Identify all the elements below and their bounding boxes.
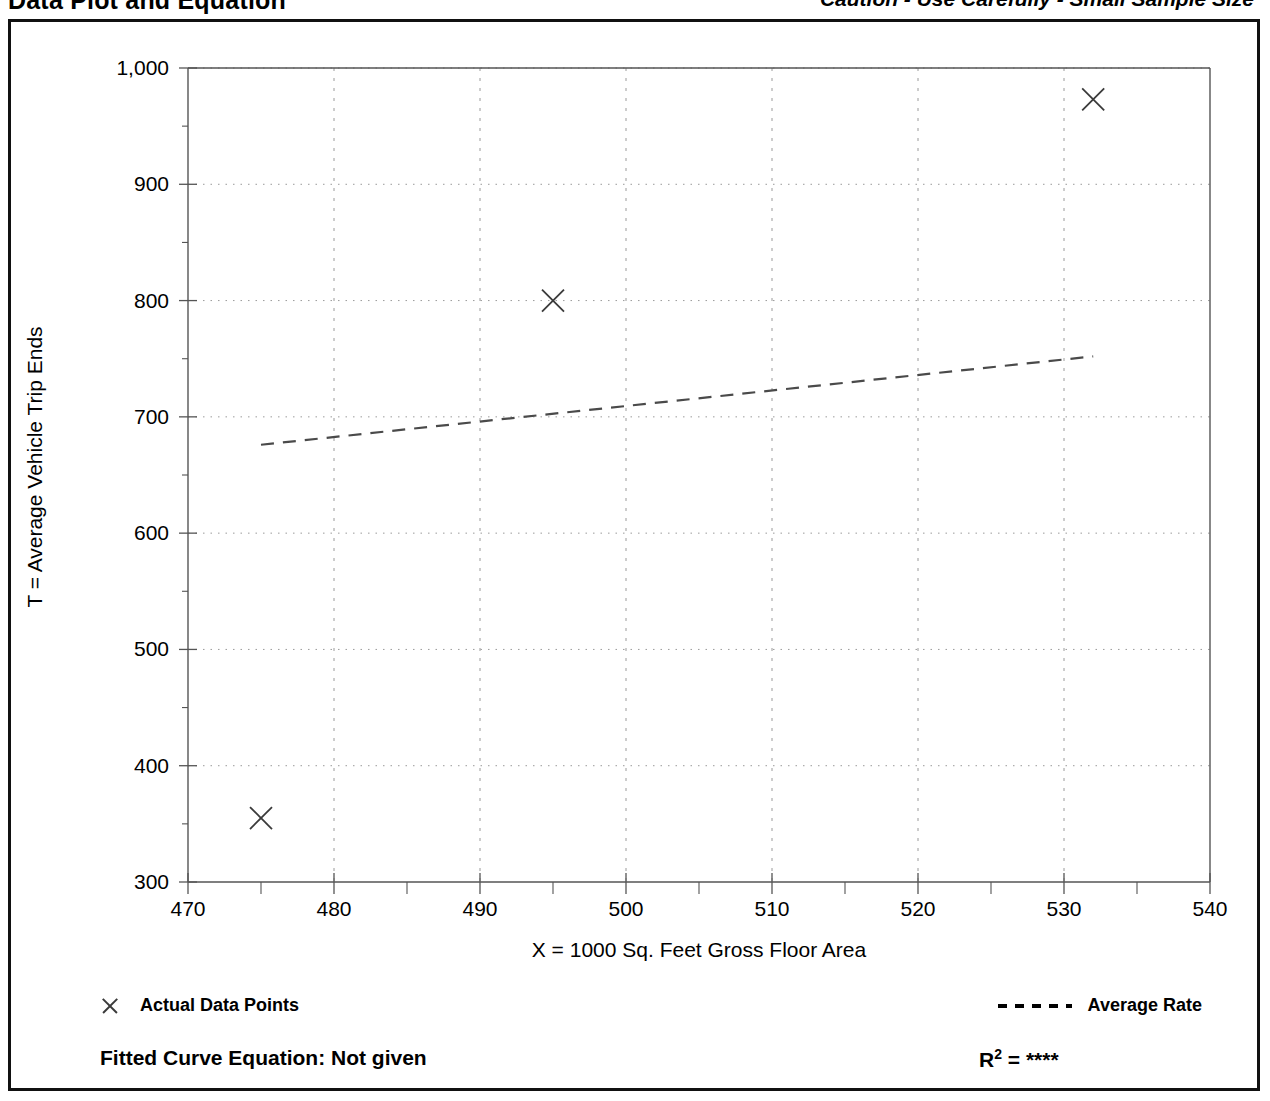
legend-item-average-rate: Average Rate	[998, 995, 1202, 1016]
header-band: Data Plot and Equation Caution - Use Car…	[0, 0, 1270, 20]
chart-legend: Actual Data Points Average Rate	[0, 995, 1270, 1029]
r-squared-value: R2 = ****	[979, 1046, 1059, 1072]
dashed-line-icon	[998, 1004, 1072, 1008]
r-squared-equals-value: = ****	[1002, 1048, 1059, 1071]
x-marker-icon	[100, 996, 120, 1016]
legend-label-average-rate: Average Rate	[1088, 995, 1202, 1016]
caution-note: Caution - Use Carefully - Small Sample S…	[820, 0, 1254, 11]
r-squared-symbol: R	[979, 1048, 994, 1071]
chart-frame	[8, 19, 1260, 1091]
equation-row: Fitted Curve Equation: Not given R2 = **…	[0, 1046, 1270, 1086]
fitted-curve-equation: Fitted Curve Equation: Not given	[100, 1046, 427, 1070]
r-squared-exponent: 2	[994, 1046, 1002, 1062]
legend-label-data-points: Actual Data Points	[140, 995, 299, 1016]
page-title: Data Plot and Equation	[8, 0, 286, 15]
legend-item-data-points: Actual Data Points	[100, 995, 299, 1016]
